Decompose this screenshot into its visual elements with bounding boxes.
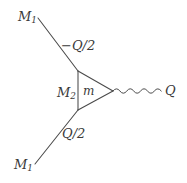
label-m2-internal: M2 xyxy=(57,86,76,101)
label-m-loop: m xyxy=(83,85,94,97)
label-q-outgoing: Q xyxy=(165,84,176,97)
feynman-diagram-figure: M1 −Q/2 M2 m Q Q/2 M1 xyxy=(0,0,187,183)
label-m1-top: M1 xyxy=(18,10,37,25)
label-m1-bottom: M1 xyxy=(14,158,33,173)
photon-wavy-line xyxy=(113,89,161,93)
label-momentum-lower: Q/2 xyxy=(62,127,85,140)
label-momentum-upper: −Q/2 xyxy=(61,39,95,52)
